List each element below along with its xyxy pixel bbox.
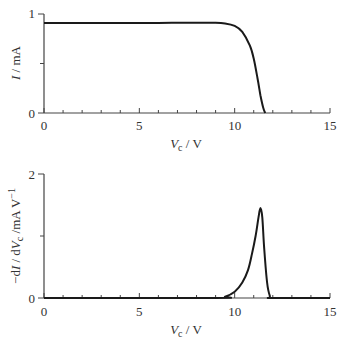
figure: 1 0 0 5 10 15 I / mA Vc / V 2 0 0 5 10 1… xyxy=(0,0,348,353)
bottom-x-tick-label: 0 xyxy=(41,304,48,319)
top-y-axis-label: I / mA xyxy=(8,45,23,81)
bottom-y-tick-label: 0 xyxy=(29,291,36,306)
top-x-tick-label: 15 xyxy=(324,118,337,133)
top-x-tick-label: 5 xyxy=(136,118,143,133)
top-x-tick-label: 0 xyxy=(41,118,48,133)
bottom-x-axis-label: Vc / V xyxy=(170,322,202,339)
top-x-ticks xyxy=(44,108,330,113)
top-x-axis-label: Vc / V xyxy=(170,136,202,153)
top-y-tick-label: 1 xyxy=(29,6,36,21)
derivative-curve xyxy=(44,208,330,298)
bottom-x-tick-label: 10 xyxy=(228,304,241,319)
bottom-y-axis-label: −dI / dVc /mA V−1 xyxy=(6,188,25,284)
bottom-x-tick-label: 5 xyxy=(136,304,143,319)
top-y-tick-label: 0 xyxy=(29,106,36,121)
top-x-tick-label: 10 xyxy=(228,118,241,133)
bottom-y-tick-label: 2 xyxy=(29,167,36,182)
bottom-x-tick-label: 15 xyxy=(324,304,337,319)
bottom-chart: 2 0 0 5 10 15 −dI / dVc /mA V−1 Vc / V xyxy=(6,167,337,339)
top-chart: 1 0 0 5 10 15 I / mA Vc / V xyxy=(8,6,337,153)
current-curve xyxy=(44,23,265,113)
